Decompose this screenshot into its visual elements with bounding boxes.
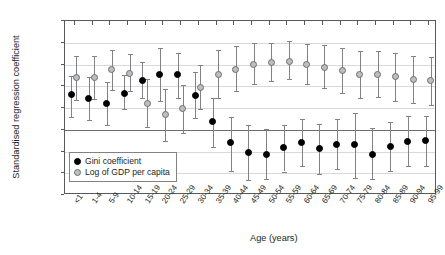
x-tick-mark — [233, 21, 234, 25]
error-bar-cap — [411, 103, 416, 104]
data-point-gini — [209, 118, 216, 125]
data-point-gini — [387, 143, 394, 150]
error-bar-cap — [322, 88, 327, 89]
data-point-gdp — [232, 66, 239, 73]
data-point-gini — [192, 92, 199, 99]
error-bar-cap — [411, 56, 416, 57]
gridline — [65, 43, 435, 44]
x-axis-title: Age (years) — [250, 233, 298, 243]
data-point-gdp — [286, 58, 293, 65]
x-tick-mark — [269, 21, 270, 25]
error-bar-cap — [198, 65, 203, 66]
y-tick-mark — [61, 194, 64, 195]
error-bar-cap — [145, 79, 150, 80]
gini-marker-icon — [74, 158, 81, 165]
error-bar-cap — [110, 90, 115, 91]
error-bar-cap — [322, 45, 327, 46]
error-bar-cap — [216, 50, 221, 51]
y-axis-title: Standardised regression coefficient — [11, 7, 21, 207]
error-bar-cap — [393, 101, 398, 102]
x-tick-mark — [198, 21, 199, 25]
data-point-gdp — [339, 67, 346, 74]
x-tick-mark — [162, 21, 163, 25]
error-bar-cap — [92, 56, 97, 57]
error-bar-cap — [317, 174, 322, 175]
data-point-gdp — [144, 100, 151, 107]
error-bar-cap — [163, 89, 168, 90]
x-tick-mark — [74, 21, 75, 25]
data-point-gini — [156, 71, 163, 78]
data-point-gdp — [162, 111, 169, 118]
error-bar-cap — [424, 116, 429, 117]
error-bar-cap — [122, 109, 127, 110]
data-point-gini — [333, 141, 340, 148]
legend-label-gini: Gini coefficient — [85, 156, 141, 167]
x-tick-mark — [92, 21, 93, 25]
data-point-gini — [422, 137, 429, 144]
data-point-gini — [85, 95, 92, 102]
x-tick-mark — [109, 21, 110, 25]
error-bar-cap — [234, 46, 239, 47]
y-tick-mark — [61, 129, 64, 130]
error-bar-cap — [163, 141, 168, 142]
gridline — [65, 108, 435, 109]
data-point-gdp — [250, 61, 257, 68]
error-bar-cap — [388, 122, 393, 123]
y-tick-mark — [61, 42, 64, 43]
chart-figure: Standardised regression coefficient Age … — [0, 0, 445, 255]
error-bar-cap — [429, 105, 434, 106]
data-point-gdp — [321, 64, 328, 71]
error-bar-cap — [406, 166, 411, 167]
error-bar-cap — [252, 43, 257, 44]
x-tick-mark — [304, 21, 305, 25]
y-tick-mark — [61, 20, 64, 21]
error-bar-cap — [211, 98, 216, 99]
error-bar-cap — [287, 79, 292, 80]
x-tick-mark — [145, 21, 146, 25]
error-bar-cap — [335, 119, 340, 120]
error-bar-cap — [393, 53, 398, 54]
error-bar-cap — [128, 54, 133, 55]
y-tick-mark — [61, 107, 64, 108]
x-tick-mark — [286, 21, 287, 25]
x-tick-mark — [375, 21, 376, 25]
x-tick-mark — [340, 21, 341, 25]
x-tick-mark — [251, 21, 252, 25]
error-bar-cap — [158, 48, 163, 49]
legend-item-gdp: Log of GDP per capita — [74, 167, 170, 178]
data-point-gdp — [356, 71, 363, 78]
data-point-gini — [404, 138, 411, 145]
gridline — [65, 86, 435, 87]
error-bar-cap — [282, 125, 287, 126]
error-bar-cap — [74, 100, 79, 101]
data-point-gdp — [427, 77, 434, 84]
error-bar-cap — [176, 98, 181, 99]
legend-label-gdp: Log of GDP per capita — [85, 167, 170, 178]
error-bar-cap — [176, 53, 181, 54]
error-bar-cap — [353, 178, 358, 179]
error-bar-cap — [305, 84, 310, 85]
error-bar-cap — [358, 98, 363, 99]
error-bar-cap — [376, 97, 381, 98]
error-bar-cap — [234, 91, 239, 92]
x-tick-mark — [357, 21, 358, 25]
x-tick-mark — [216, 21, 217, 25]
error-bar-cap — [105, 82, 110, 83]
error-bar-cap — [110, 50, 115, 51]
data-point-gini — [298, 139, 305, 146]
data-point-gini — [263, 151, 270, 158]
error-bar-cap — [246, 125, 251, 126]
error-bar-cap — [216, 98, 221, 99]
data-point-gini — [369, 151, 376, 158]
error-bar-cap — [406, 116, 411, 117]
x-tick-mark — [180, 21, 181, 25]
y-tick-mark — [61, 85, 64, 86]
error-bar-cap — [370, 128, 375, 129]
y-tick-mark — [61, 151, 64, 152]
data-point-gini — [227, 139, 234, 146]
error-bar-cap — [158, 101, 163, 102]
error-bar-cap — [358, 51, 363, 52]
data-point-gini — [280, 144, 287, 151]
x-tick-mark — [127, 21, 128, 25]
gdp-marker-icon — [74, 169, 81, 176]
